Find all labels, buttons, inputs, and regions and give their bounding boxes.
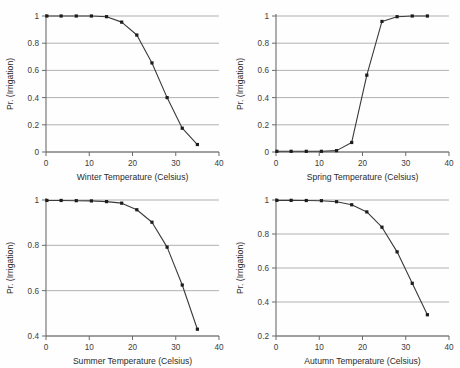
data-point bbox=[411, 14, 414, 17]
plot-summer: 0102030400.40.60.81Summer Temperature (C… bbox=[0, 184, 230, 368]
y-tick-label: 0.2 bbox=[258, 121, 270, 130]
data-point bbox=[396, 15, 399, 18]
y-tick-label: 0.6 bbox=[258, 264, 270, 273]
data-point bbox=[290, 199, 293, 202]
data-point bbox=[426, 14, 429, 17]
data-series-line-spring bbox=[277, 16, 428, 151]
data-point bbox=[181, 127, 184, 130]
x-axis-ticks-summer: 010203040 bbox=[44, 336, 224, 352]
data-point bbox=[60, 14, 63, 17]
data-point bbox=[150, 221, 153, 224]
plot-winter: 01020304000.20.40.60.81Winter Temperatur… bbox=[0, 0, 230, 184]
x-tick-label: 10 bbox=[315, 343, 325, 352]
data-point bbox=[380, 20, 383, 23]
y-tick-label: 1 bbox=[264, 12, 269, 21]
y-axis-title-autumn: Pr. (Irrigation) bbox=[235, 242, 245, 294]
x-tick-label: 40 bbox=[444, 343, 454, 352]
figure-canvas: 01020304000.20.40.60.81Winter Temperatur… bbox=[0, 0, 460, 368]
plot-autumn: 0102030400.20.40.60.81Autumn Temperature… bbox=[230, 184, 460, 368]
y-axis-ticks-autumn: 0.20.40.60.81 bbox=[258, 196, 276, 341]
x-axis-title-winter: Winter Temperature (Celsius) bbox=[77, 172, 189, 182]
data-point bbox=[305, 150, 308, 153]
data-point bbox=[365, 210, 368, 213]
x-axis-ticks-spring: 010203040 bbox=[274, 152, 454, 168]
x-axis-ticks-winter: 010203040 bbox=[44, 152, 224, 168]
data-point bbox=[75, 199, 78, 202]
x-tick-label: 30 bbox=[401, 159, 411, 168]
data-markers-summer bbox=[45, 199, 199, 331]
data-point bbox=[90, 199, 93, 202]
data-point bbox=[196, 328, 199, 331]
x-tick-label: 30 bbox=[401, 343, 411, 352]
chart-panel-winter: 01020304000.20.40.60.81Winter Temperatur… bbox=[0, 0, 230, 184]
x-tick-label: 20 bbox=[128, 159, 138, 168]
data-point bbox=[350, 141, 353, 144]
data-point bbox=[275, 150, 278, 153]
chart-panel-spring: 01020304000.20.40.60.81Spring Temperatur… bbox=[230, 0, 460, 184]
data-point bbox=[411, 282, 414, 285]
y-axis-title-summer: Pr. (Irrigation) bbox=[5, 242, 15, 294]
x-tick-label: 20 bbox=[358, 343, 368, 352]
data-point bbox=[135, 33, 138, 36]
data-point bbox=[305, 199, 308, 202]
data-point bbox=[60, 199, 63, 202]
data-point bbox=[320, 199, 323, 202]
x-axis-title-spring: Spring Temperature (Celsius) bbox=[307, 172, 419, 182]
data-point bbox=[45, 14, 48, 17]
x-axis-title-autumn: Autumn Temperature (Celsius) bbox=[304, 356, 421, 366]
x-tick-label: 10 bbox=[85, 159, 95, 168]
x-tick-label: 20 bbox=[128, 343, 138, 352]
x-tick-label: 30 bbox=[171, 343, 181, 352]
y-tick-label: 0.8 bbox=[28, 241, 40, 250]
y-tick-label: 0.6 bbox=[28, 66, 40, 75]
y-tick-label: 0.8 bbox=[28, 39, 40, 48]
gridlines-autumn bbox=[276, 200, 449, 336]
data-series-line-summer bbox=[47, 200, 198, 329]
gridlines-spring bbox=[276, 16, 449, 152]
y-axis-ticks-spring: 00.20.40.60.81 bbox=[258, 12, 276, 157]
data-point bbox=[75, 14, 78, 17]
x-tick-label: 40 bbox=[214, 343, 224, 352]
data-point bbox=[105, 15, 108, 18]
data-point bbox=[120, 202, 123, 205]
data-point bbox=[290, 150, 293, 153]
x-tick-label: 0 bbox=[44, 159, 49, 168]
y-tick-label: 0 bbox=[34, 148, 39, 157]
data-point bbox=[275, 199, 278, 202]
plot-spring: 01020304000.20.40.60.81Spring Temperatur… bbox=[230, 0, 460, 184]
y-tick-label: 1 bbox=[34, 196, 39, 205]
data-markers-autumn bbox=[275, 199, 429, 317]
x-tick-label: 20 bbox=[358, 159, 368, 168]
x-tick-label: 10 bbox=[315, 159, 325, 168]
data-point bbox=[335, 149, 338, 152]
y-tick-label: 0.8 bbox=[258, 39, 270, 48]
axes-spring bbox=[276, 14, 449, 152]
data-point bbox=[335, 200, 338, 203]
x-tick-label: 40 bbox=[214, 159, 224, 168]
data-point bbox=[350, 203, 353, 206]
x-axis-ticks-autumn: 010203040 bbox=[274, 336, 454, 352]
data-markers-winter bbox=[45, 14, 199, 146]
chart-panel-autumn: 0102030400.20.40.60.81Autumn Temperature… bbox=[230, 184, 460, 368]
y-axis-title-winter: Pr. (Irrigation) bbox=[5, 58, 15, 110]
y-tick-label: 1 bbox=[264, 196, 269, 205]
data-point bbox=[320, 150, 323, 153]
x-tick-label: 0 bbox=[44, 343, 49, 352]
x-tick-label: 0 bbox=[274, 343, 279, 352]
data-point bbox=[166, 246, 169, 249]
data-markers-spring bbox=[275, 14, 429, 153]
x-tick-label: 10 bbox=[85, 343, 95, 352]
y-axis-ticks-winter: 00.20.40.60.81 bbox=[28, 12, 46, 157]
x-tick-label: 40 bbox=[444, 159, 454, 168]
gridlines-winter bbox=[46, 16, 219, 152]
data-point bbox=[166, 96, 169, 99]
data-point bbox=[135, 208, 138, 211]
data-point bbox=[426, 313, 429, 316]
data-point bbox=[45, 199, 48, 202]
data-point bbox=[396, 250, 399, 253]
y-tick-label: 0.8 bbox=[258, 230, 270, 239]
y-tick-label: 0.2 bbox=[258, 332, 270, 341]
y-tick-label: 0.4 bbox=[258, 298, 270, 307]
axes-winter bbox=[46, 14, 219, 152]
y-tick-label: 0.6 bbox=[28, 287, 40, 296]
